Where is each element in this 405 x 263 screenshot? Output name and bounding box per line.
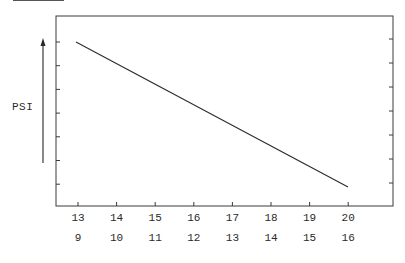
x-tick-label-row2: 10 — [110, 232, 123, 244]
y-ticks-right — [389, 39, 393, 183]
x-tick-label-row1: 16 — [187, 212, 200, 224]
x-tick-label-row2: 11 — [149, 232, 162, 244]
y-axis-label: PSI — [12, 101, 33, 113]
x-tick-label-row2: 13 — [226, 232, 239, 244]
x-tick-label-row1: 13 — [71, 212, 84, 224]
x-ticks — [78, 202, 348, 206]
x-tick-label-row1: 18 — [264, 212, 277, 224]
x-tick-label-row1: 19 — [303, 212, 316, 224]
y-ticks-left — [56, 42, 60, 184]
x-tick-label-row2: 9 — [75, 232, 82, 244]
data-line — [76, 42, 348, 187]
x-tick-label-row2: 12 — [187, 232, 200, 244]
x-tick-label-row2: 15 — [303, 232, 316, 244]
plot-frame — [56, 16, 393, 206]
chart: PSI 1391410151116121713181419152016 — [0, 0, 405, 263]
x-tick-label-row1: 15 — [149, 212, 162, 224]
x-tick-label-row1: 17 — [226, 212, 239, 224]
x-tick-label-row1: 14 — [110, 212, 123, 224]
x-tick-label-row2: 14 — [264, 232, 277, 244]
x-tick-label-row1: 20 — [342, 212, 355, 224]
x-tick-label-row2: 16 — [342, 232, 355, 244]
arrow-up-icon — [41, 38, 46, 46]
